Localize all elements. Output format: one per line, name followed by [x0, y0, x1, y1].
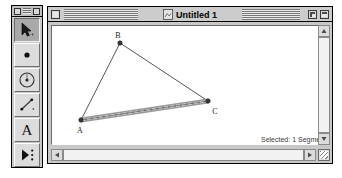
titlebar-stripes-right	[242, 9, 300, 20]
tool-custom[interactable]	[14, 143, 40, 167]
window-title: Untitled 1	[176, 10, 217, 20]
segments-layer	[81, 43, 208, 120]
resize-grip-hatch	[320, 151, 328, 159]
chevron-up-icon	[321, 28, 328, 34]
segment-AC[interactable]	[81, 101, 208, 120]
palette-title-stripes	[23, 8, 31, 14]
palette-titlebar[interactable]	[12, 6, 42, 17]
close-icon	[53, 12, 58, 17]
tool-palette: A	[11, 5, 43, 168]
circle-compass-icon	[17, 71, 37, 89]
tool-compass[interactable]	[14, 68, 40, 92]
zoom-button[interactable]	[308, 10, 317, 19]
status-text: Selected: 1 Segment	[261, 136, 326, 143]
geometry-drawing: ABC	[52, 26, 328, 144]
palette-collapse-box[interactable]	[33, 8, 40, 15]
scroll-up-arrow[interactable]	[318, 25, 330, 37]
segment-BC[interactable]	[120, 43, 208, 101]
point-B[interactable]	[118, 41, 122, 45]
zoom-icon	[310, 12, 315, 17]
resize-grip[interactable]	[318, 149, 330, 161]
line-segment-icon	[17, 96, 37, 114]
point-A[interactable]	[79, 118, 83, 122]
chevron-left-icon	[54, 152, 60, 159]
collapse-icon	[322, 12, 327, 17]
document-window: Untitled 1 ABC Selected: 1 Segment	[47, 6, 333, 164]
vertical-scroll-thumb[interactable]	[318, 37, 330, 133]
arrow-cursor-icon	[17, 21, 37, 39]
point-dot-icon	[17, 46, 37, 64]
tool-text[interactable]: A	[14, 118, 40, 142]
scroll-left-arrow[interactable]	[51, 149, 63, 161]
text-a-icon: A	[15, 123, 39, 138]
point-label-C[interactable]: C	[212, 107, 217, 116]
titlebar-stripes-left	[64, 9, 138, 20]
scroll-down-arrow[interactable]	[318, 133, 330, 145]
window-title-group: Untitled 1	[160, 8, 220, 21]
point-label-A[interactable]: A	[77, 126, 83, 135]
window-titlebar[interactable]: Untitled 1	[48, 7, 332, 22]
close-button[interactable]	[51, 10, 60, 19]
tool-straightedge[interactable]	[14, 93, 40, 117]
vertical-scrollbar[interactable]	[318, 25, 330, 145]
app-screenshot: A	[0, 0, 342, 178]
chevron-down-icon	[321, 136, 328, 142]
horizontal-scrollbar[interactable]	[51, 149, 316, 161]
collapse-button[interactable]	[320, 10, 329, 19]
tool-point[interactable]	[14, 43, 40, 67]
horizontal-scroll-thumb[interactable]	[63, 149, 304, 161]
segment-AB[interactable]	[81, 43, 120, 120]
document-icon	[163, 9, 173, 20]
point-C[interactable]	[206, 99, 210, 103]
sketch-canvas[interactable]: ABC Selected: 1 Segment	[51, 25, 329, 145]
point-label-B[interactable]: B	[115, 31, 120, 40]
play-dots-icon	[17, 146, 37, 164]
palette-close-box[interactable]	[14, 8, 21, 15]
tool-arrow[interactable]	[14, 18, 40, 42]
chevron-right-icon	[307, 152, 313, 159]
scroll-right-arrow[interactable]	[304, 149, 316, 161]
tool-list: A	[12, 17, 42, 167]
